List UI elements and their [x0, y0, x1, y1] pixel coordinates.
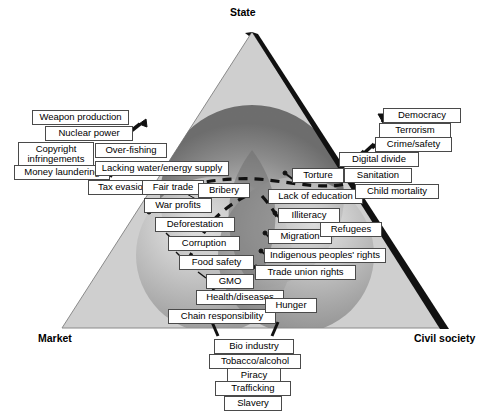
issue-label-hunger[interactable]: Hunger [265, 298, 317, 313]
issue-label-slavery[interactable]: Slavery [224, 396, 282, 411]
issue-label-tobacco-alcohol[interactable]: Tobacco/alcohol [209, 354, 301, 369]
corner-label-market: Market [38, 332, 72, 344]
corner-label-civil_society: Civil society [414, 332, 475, 344]
issue-label-sanitation[interactable]: Sanitation [344, 168, 412, 183]
issue-label-fair-trade[interactable]: Fair trade [142, 180, 204, 195]
issue-label-illiteracy[interactable]: Illiteracy [278, 208, 340, 223]
issue-label-deforestation[interactable]: Deforestation [155, 217, 235, 232]
issue-label-weapon-production[interactable]: Weapon production [32, 110, 129, 125]
issue-label-crime-safety[interactable]: Crime/safety [375, 137, 452, 152]
issue-label-corruption[interactable]: Corruption [168, 236, 240, 251]
corner-label-state: State [230, 6, 256, 18]
diagram-canvas: StateMarketCivil society Weapon producti… [0, 0, 494, 415]
issue-label-trafficking[interactable]: Trafficking [215, 381, 291, 396]
issue-label-digital-divide[interactable]: Digital divide [339, 152, 419, 167]
issue-label-bio-industry[interactable]: Bio industry [214, 339, 294, 354]
issue-label-torture[interactable]: Torture [292, 168, 344, 183]
issue-label-lacking-water-energy[interactable]: Lacking water/energy supply [95, 161, 229, 176]
issue-label-democracy[interactable]: Democracy [383, 108, 461, 123]
issue-label-gmo[interactable]: GMO [206, 274, 254, 289]
issue-label-indigenous-peoples-rights[interactable]: Indigenous peoples' rights [264, 248, 386, 263]
issue-label-food-safety[interactable]: Food safety [179, 255, 254, 270]
issue-label-war-profits[interactable]: War profits [144, 198, 212, 213]
issue-label-over-fishing[interactable]: Over-fishing [95, 143, 167, 158]
issue-label-nuclear-power[interactable]: Nuclear power [45, 126, 133, 141]
issue-label-terrorism[interactable]: Terrorism [379, 123, 451, 138]
issue-label-refugees[interactable]: Refugees [320, 222, 382, 237]
issue-label-lack-of-education[interactable]: Lack of education [268, 189, 363, 204]
issue-label-child-mortality[interactable]: Child mortality [355, 184, 439, 199]
issue-label-bribery[interactable]: Bribery [198, 183, 250, 198]
issue-label-trade-union-rights[interactable]: Trade union rights [255, 265, 356, 280]
issue-label-chain-responsibility[interactable]: Chain responsibility [168, 309, 276, 324]
